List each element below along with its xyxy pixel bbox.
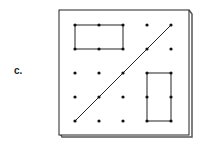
peg: [169, 71, 172, 74]
geoboard: [0, 0, 200, 145]
peg: [73, 47, 76, 50]
peg: [73, 95, 76, 98]
peg: [97, 23, 100, 26]
peg: [169, 47, 172, 50]
peg: [169, 95, 172, 98]
peg: [73, 71, 76, 74]
peg: [97, 95, 100, 98]
peg: [169, 23, 172, 26]
peg: [121, 95, 124, 98]
peg: [145, 119, 148, 122]
peg: [121, 71, 124, 74]
peg: [121, 119, 124, 122]
peg: [73, 119, 76, 122]
peg: [121, 23, 124, 26]
peg: [121, 47, 124, 50]
peg: [73, 23, 76, 26]
peg: [145, 95, 148, 98]
peg: [145, 23, 148, 26]
peg: [97, 71, 100, 74]
peg: [97, 47, 100, 50]
peg: [169, 119, 172, 122]
peg: [97, 119, 100, 122]
peg: [145, 47, 148, 50]
peg: [145, 71, 148, 74]
